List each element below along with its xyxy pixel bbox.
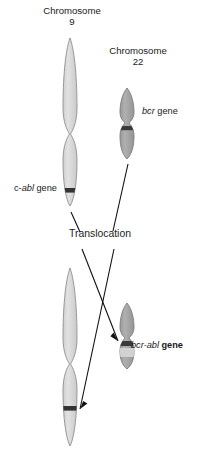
bcr-gene-label: bcr gene [142,106,178,116]
derivative-chromosome-9-body [60,268,82,446]
chromosome-9-title-line1: Chromosome [43,5,101,16]
c-abl-band [60,188,82,193]
diagram-canvas [0,0,201,451]
translocation-diagram: Chromosome 9 Chromosome 22 c-abl gene bc… [0,0,201,451]
bcr-abl-gene-label: bcr-abl gene [131,340,183,350]
bcr-abl-suffix: gene [159,340,183,350]
c-abl-italic: abl [22,183,34,193]
c-abl-gene-label: c-abl gene [14,183,57,193]
bcr-band [117,126,139,130]
chromosome-9-body [60,38,82,206]
connector-chr22-to-translocation [113,164,128,231]
chromosome-9-number: 9 [32,17,112,28]
chromosome-22-title-line1: Chromosome [109,45,167,56]
chromosome-22-body [117,88,139,159]
translocation-arrow-to-derivative-9 [80,249,114,409]
chromosome-22-number: 22 [92,57,184,68]
c-abl-prefix: c- [14,183,22,193]
derivative-chromosome-22-body [117,303,139,369]
c-abl-suffix: gene [34,183,57,193]
bcr-suffix: gene [155,106,178,116]
translocation-arrow-to-philadelphia [82,249,118,341]
translocation-step-label: Translocation [50,228,150,240]
bcr-abl-italic: bcr-abl [131,340,159,350]
chromosome-22-title: Chromosome 22 [92,46,184,67]
bcr-italic: bcr [142,106,155,116]
chromosome-9-title: Chromosome 9 [32,6,112,27]
